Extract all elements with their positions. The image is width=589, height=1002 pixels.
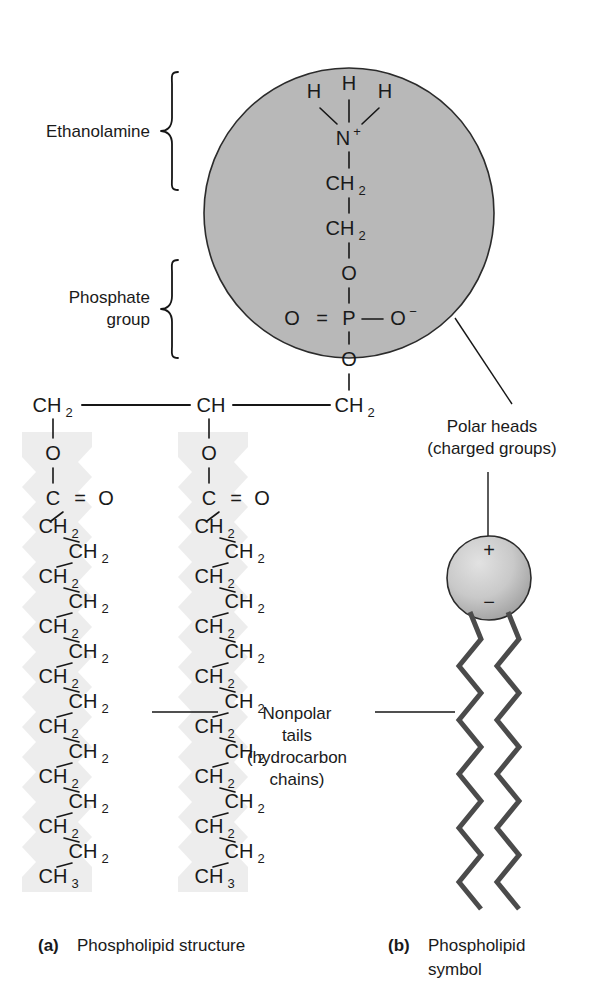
chain-unit-ch2-sub: 2 <box>71 526 78 541</box>
double-bond-symbol-phosphate: = <box>316 307 328 329</box>
chain-unit-ch2-sub: 2 <box>101 551 108 566</box>
chain-unit-ch2-sub: 2 <box>101 751 108 766</box>
chain-unit-ch2-sub: 2 <box>227 676 234 691</box>
label-phosphate-line2: group <box>107 310 150 329</box>
atom-h-center: H <box>342 72 356 94</box>
chain-unit-ch2: CH <box>69 590 98 612</box>
chain-unit-ch2: CH <box>195 615 224 637</box>
chain-unit-ch2-sub: 2 <box>71 726 78 741</box>
symbol-nonpolar-tails <box>459 612 519 909</box>
chain-unit-ch2: CH <box>225 790 254 812</box>
caption-b-text-line1: Phospholipid <box>428 936 525 955</box>
glycerol-left-ch: CH <box>33 394 62 416</box>
ester-left-carbonyl-o: O <box>98 487 114 509</box>
caption-a-text: Phospholipid structure <box>77 936 245 955</box>
chain-unit-ch2: CH <box>39 715 68 737</box>
atom-oxygen-upper: O <box>341 262 357 284</box>
symbol-charge-plus: + <box>483 539 495 561</box>
chain-unit-ch2: CH <box>225 540 254 562</box>
chain-unit-ch2: CH <box>195 515 224 537</box>
atom-nitrogen: N <box>336 127 350 149</box>
chain-unit-ch2: CH <box>225 640 254 662</box>
chain-unit-ch2-sub: 2 <box>101 651 108 666</box>
glycerol-right-ch: CH <box>335 394 364 416</box>
glycerol-mid-ch: CH <box>197 394 226 416</box>
ester-right-oxygen: O <box>201 442 217 464</box>
ester-left-double-bond: = <box>74 487 86 509</box>
ester-right-carbonyl-o: O <box>254 487 270 509</box>
chain-unit-ch2: CH <box>39 615 68 637</box>
callout-polar-heads-line2: (charged groups) <box>427 439 556 458</box>
symbol-tail-2 <box>497 612 519 909</box>
symbol-tail-1 <box>459 612 481 909</box>
charge-oxygen-minus: − <box>409 304 417 319</box>
chain-unit-ch2: CH <box>39 665 68 687</box>
sub-ch2-head-b: 2 <box>358 228 365 243</box>
glycerol-right-sub: 2 <box>367 405 374 420</box>
chain-unit-ch2-sub: 2 <box>227 526 234 541</box>
phosphate-bracket <box>161 260 178 358</box>
chain-unit-ch2-sub: 2 <box>71 576 78 591</box>
atom-oxygen-double: O <box>284 307 300 329</box>
phospholipid-diagram: Ethanolamine Phosphate group H H H N + C… <box>0 0 589 1002</box>
ethanolamine-bracket <box>161 72 178 190</box>
chain-terminal-ch3: CH <box>39 865 68 887</box>
atom-ch2-head-b: CH <box>326 217 355 239</box>
ester-left-oxygen: O <box>45 442 61 464</box>
chain-unit-ch2: CH <box>225 590 254 612</box>
callout-nonpolar-line1: Nonpolar <box>263 704 332 723</box>
leader-polar-heads <box>455 318 512 404</box>
glycerol-left-sub: 2 <box>65 405 72 420</box>
chain-unit-ch2-sub: 2 <box>101 701 108 716</box>
chain-unit-ch2: CH <box>69 640 98 662</box>
chain-unit-ch2: CH <box>195 665 224 687</box>
label-phosphate-line1: Phosphate <box>69 288 150 307</box>
chain-unit-ch2: CH <box>225 690 254 712</box>
chain-unit-ch2-sub: 2 <box>101 801 108 816</box>
ester-left-carbonyl-c: C <box>46 487 60 509</box>
chain-unit-ch2-sub: 2 <box>257 801 264 816</box>
chain-unit-ch2-sub: 2 <box>101 601 108 616</box>
chain-unit-ch2-sub: 2 <box>257 851 264 866</box>
chain-unit-ch2-sub: 2 <box>227 576 234 591</box>
atom-oxygen-anion: O <box>390 307 406 329</box>
chain-unit-ch2: CH <box>69 690 98 712</box>
sub-ch2-head-a: 2 <box>358 183 365 198</box>
chain-unit-ch2-sub: 2 <box>227 826 234 841</box>
chain-unit-ch2: CH <box>195 715 224 737</box>
chain-terminal-ch3-sub: 3 <box>71 876 78 891</box>
chain-unit-ch2-sub: 2 <box>257 601 264 616</box>
chain-terminal-ch3-sub: 3 <box>227 876 234 891</box>
atom-oxygen-lower: O <box>341 348 357 370</box>
chain-unit-ch2-sub: 2 <box>227 776 234 791</box>
chain-unit-ch2: CH <box>39 765 68 787</box>
chain-unit-ch2-sub: 2 <box>257 651 264 666</box>
ester-right-double-bond: = <box>230 487 242 509</box>
atom-h-right: H <box>378 80 392 102</box>
chain-unit-ch2: CH <box>195 565 224 587</box>
caption-a-marker: (a) <box>38 936 59 955</box>
chain-unit-ch2: CH <box>69 790 98 812</box>
chain-unit-ch2-sub: 2 <box>257 551 264 566</box>
chain-unit-ch2-sub: 2 <box>227 726 234 741</box>
chain-unit-ch2-sub: 2 <box>71 776 78 791</box>
chain-unit-ch2-sub: 2 <box>71 826 78 841</box>
chain-unit-ch2-sub: 2 <box>227 626 234 641</box>
chain-terminal-ch3: CH <box>195 865 224 887</box>
chain-unit-ch2: CH <box>39 515 68 537</box>
callout-polar-heads-line1: Polar heads <box>447 417 538 436</box>
chain-unit-ch2: CH <box>69 840 98 862</box>
chain-unit-ch2: CH <box>195 765 224 787</box>
callout-nonpolar-line4: chains) <box>270 770 325 789</box>
caption-b-marker: (b) <box>388 936 410 955</box>
atom-h-left: H <box>307 80 321 102</box>
caption-b-text-line2: symbol <box>428 960 482 979</box>
chain-unit-ch2: CH <box>225 840 254 862</box>
atom-ch2-head-a: CH <box>326 172 355 194</box>
chain-unit-ch2: CH <box>69 740 98 762</box>
callout-nonpolar-line3: (hydrocarbon <box>247 748 347 767</box>
chain-unit-ch2-sub: 2 <box>71 676 78 691</box>
callout-nonpolar-line2: tails <box>282 726 312 745</box>
chain-unit-ch2-sub: 2 <box>71 626 78 641</box>
chain-unit-ch2: CH <box>39 565 68 587</box>
